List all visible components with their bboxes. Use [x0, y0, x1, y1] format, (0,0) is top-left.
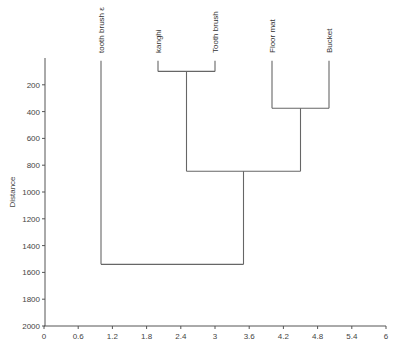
leaf-label: Tooth brush [211, 11, 220, 53]
y-tick-label: 1800 [22, 295, 40, 304]
dendrogram-tree [101, 61, 329, 265]
x-tick-label: 5.4 [346, 332, 358, 341]
y-tick-label: 1000 [22, 188, 40, 197]
leaf-labels: tooth brush εkanghiTooth brushFloor matB… [97, 7, 334, 53]
y-tick-label: 1400 [22, 242, 40, 251]
y-tick-label: 1600 [22, 268, 40, 277]
y-tick-label: 600 [27, 134, 41, 143]
x-tick-label: 6 [384, 332, 389, 341]
y-tick-label: 200 [27, 81, 41, 90]
x-tick-label: 4.2 [278, 332, 290, 341]
axes: 200400600800100012001400160018002000 00.… [8, 58, 389, 341]
leaf-label: kanghi [154, 29, 163, 53]
x-tick-label: 0.6 [73, 332, 85, 341]
leaf-label: Floor mat [268, 18, 277, 53]
leaf-label: tooth brush ε [97, 7, 106, 53]
y-axis-label: Distance [8, 176, 17, 208]
y-tick-label: 400 [27, 108, 41, 117]
x-tick-label: 1.2 [107, 332, 119, 341]
leaf-label: Bucket [325, 28, 334, 53]
x-axis-ticks: 00.61.21.82.433.64.24.85.46 [42, 326, 389, 341]
x-tick-label: 3.6 [244, 332, 256, 341]
x-tick-label: 1.8 [141, 332, 153, 341]
y-tick-label: 2000 [22, 322, 40, 331]
y-tick-label: 800 [27, 161, 41, 170]
y-tick-label: 1200 [22, 215, 40, 224]
x-tick-label: 4.8 [312, 332, 324, 341]
y-axis-ticks: 200400600800100012001400160018002000 [22, 81, 45, 331]
x-tick-label: 0 [42, 332, 47, 341]
x-tick-label: 2.4 [175, 332, 187, 341]
dendrogram-chart: 200400600800100012001400160018002000 00.… [0, 0, 401, 350]
x-tick-label: 3 [213, 332, 218, 341]
